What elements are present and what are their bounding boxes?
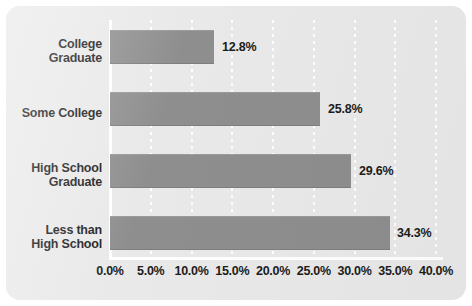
x-axis-tick-labels: 0.0% 5.0% 10.0% 15.0% 20.0% 25.0% 30.0% … [6, 264, 466, 284]
category-label-high-school-graduate: High School Graduate [6, 161, 102, 189]
category-label-line: College [6, 37, 102, 51]
category-label-line: Graduate [6, 175, 102, 189]
bar-college-graduate[interactable] [110, 30, 214, 64]
category-label-some-college: Some College [6, 106, 102, 120]
category-label-line: High School [6, 237, 102, 251]
bar-less-than-high-school[interactable] [110, 216, 390, 250]
category-label-line: High School [6, 161, 102, 175]
category-label-line: Less than [6, 223, 102, 237]
category-label-line: Some College [6, 106, 102, 120]
x-axis-line [109, 257, 443, 260]
bar-value-label: 34.3% [397, 226, 431, 240]
category-label-line: Graduate [6, 51, 102, 65]
chart-card: 12.8% 25.8% 29.6% 34.3% College Graduate… [6, 6, 466, 300]
bar-value-label: 25.8% [328, 102, 362, 116]
plot-area: 12.8% 25.8% 29.6% 34.3% [110, 20, 436, 258]
category-label-college-graduate: College Graduate [6, 37, 102, 65]
bar-high-school-graduate[interactable] [110, 154, 351, 188]
gridline-35 [394, 20, 396, 258]
gridline-40 [435, 20, 437, 258]
bar-value-label: 12.8% [222, 40, 256, 54]
bar-value-label: 29.6% [359, 164, 393, 178]
x-tick-label: 40.0% [401, 264, 466, 278]
bar-some-college[interactable] [110, 92, 320, 126]
category-label-less-than-high-school: Less than High School [6, 223, 102, 251]
